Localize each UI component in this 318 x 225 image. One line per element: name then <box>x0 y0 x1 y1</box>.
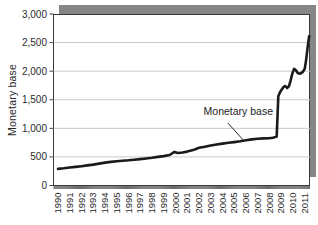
x-tick-label: 1990 <box>52 192 63 213</box>
x-tick-label: 2010 <box>287 192 298 213</box>
x-tick-label: 1998 <box>146 192 157 213</box>
y-tick-label: 1,500 <box>22 94 47 105</box>
x-tick-label: 1997 <box>134 192 145 213</box>
x-tick-label: 1996 <box>123 192 134 213</box>
x-tick-label: 2006 <box>240 192 251 213</box>
x-tick-label: 2001 <box>181 192 192 213</box>
x-tick-label: 1993 <box>87 192 98 213</box>
x-tick-label: 2005 <box>228 192 239 213</box>
series-line <box>58 36 309 169</box>
y-tick-label: 1,000 <box>22 123 47 134</box>
x-tick-label: 2004 <box>217 192 228 213</box>
x-tick-label: 1992 <box>76 192 87 213</box>
x-tick-label: 1995 <box>111 192 122 213</box>
monetary-base-chart: Monetary base 05001,0001,5002,0002,5003,… <box>0 0 318 225</box>
x-tick-label: 2003 <box>205 192 216 213</box>
x-tick-label: 2008 <box>264 192 275 213</box>
x-tick-label: 2000 <box>170 192 181 213</box>
y-tick-label: 2,500 <box>22 37 47 48</box>
y-tick-label: 500 <box>30 151 47 162</box>
y-tick-label: 0 <box>41 180 47 191</box>
y-tick-label: 3,000 <box>22 9 47 20</box>
x-tick-label: 1991 <box>64 192 75 213</box>
x-tick-label: 1999 <box>158 192 169 213</box>
x-tick-label: 1994 <box>99 192 110 213</box>
annotation-leader-line <box>228 123 243 140</box>
y-tick-label: 2,000 <box>22 66 47 77</box>
x-tick-label: 2007 <box>252 192 263 213</box>
annotation-label: Monetary base <box>204 105 273 117</box>
x-tick-label: 2009 <box>275 192 286 213</box>
x-tick-label: 2002 <box>193 192 204 213</box>
x-tick-label: 2011 <box>299 193 310 213</box>
